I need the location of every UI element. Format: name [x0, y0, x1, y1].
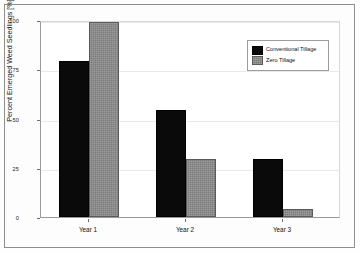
legend-item-conventional-tillage: Conventional Tillage: [252, 46, 324, 55]
y-tick-label-75: 75: [13, 67, 19, 73]
bar-group-year-1: [59, 22, 89, 217]
x-tick-mark-year-1: [88, 219, 89, 222]
bar-zero-tillage-year-2: [186, 159, 216, 218]
legend-item-zero-tillage: Zero Tillage: [252, 56, 324, 65]
bar-conventional-tillage-year-3: [253, 159, 283, 218]
bar-zero-tillage-year-3: [283, 209, 313, 217]
legend-label-conventional-tillage: Conventional Tillage: [266, 47, 316, 53]
bar-group-year-1-zero: [89, 22, 119, 217]
legend-label-zero-tillage: Zero Tillage: [266, 58, 295, 64]
y-tick-label-25: 25: [13, 166, 19, 172]
y-tick-mark-0: [37, 218, 40, 219]
y-tick-label-50: 50: [13, 117, 19, 123]
chart-legend: Conventional Tillage Zero Tillage: [247, 40, 329, 71]
y-tick-label-0: 0: [16, 215, 19, 221]
x-axis-label-year-1: Year 1: [79, 226, 97, 233]
x-tick-mark-year-2: [185, 219, 186, 222]
bar-zero-tillage-year-1: [89, 22, 119, 217]
bar-conventional-tillage-year-2: [156, 110, 186, 217]
x-axis-label-year-2: Year 2: [176, 226, 194, 233]
bar-conventional-tillage-year-1: [59, 61, 89, 217]
x-tick-mark-year-3: [282, 219, 283, 222]
legend-swatch-zero-tillage: [252, 56, 263, 65]
bar-group-year-2-zero: [186, 22, 216, 217]
legend-swatch-conventional-tillage: [252, 46, 263, 55]
x-axis-label-year-3: Year 3: [273, 226, 291, 233]
bar-group-year-2: [156, 22, 186, 217]
y-tick-label-100: 100: [9, 18, 19, 24]
bar-chart-figure: Percent Emerged Weed Seedlings [%] 0 25 …: [0, 0, 360, 253]
